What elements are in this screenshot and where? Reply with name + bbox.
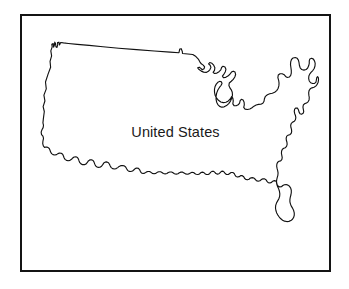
us-country-outline xyxy=(41,42,318,221)
us-map-svg xyxy=(22,16,329,270)
map-figure-frame: United States xyxy=(20,14,331,272)
